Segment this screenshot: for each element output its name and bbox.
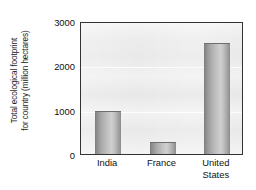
x-axis-tick-label-united-states: United States [202,157,229,180]
y-axis-title-line-1: Total ecological footprint [10,30,21,130]
x-axis-tick-label-india-line-1: India [97,157,117,169]
x-axis-tick-label-france: France [147,157,176,169]
y-axis-tick-labels: 3000 2000 1000 0 [38,0,78,190]
y-axis-tick-label: 3000 [54,17,75,28]
y-axis-tick-label: 0 [70,150,75,161]
y-axis-title-line-2: for country (million hectares) [20,30,31,130]
x-axis-tick-labels: India France United States [80,157,243,190]
bar-france [150,142,176,154]
x-axis-tick-label-france-line-1: France [147,157,176,169]
bar-india [95,111,121,154]
y-axis-tick-label: 1000 [54,105,75,116]
x-axis-tick-label-united-states-line-2: States [202,169,229,181]
plot-area [80,22,243,155]
x-axis-tick-label-india: India [97,157,117,169]
bar-chart-figure: Total ecological footprint for country (… [0,0,256,190]
bar-united-states [204,43,230,154]
y-axis-tick-label: 2000 [54,61,75,72]
y-axis-title: Total ecological footprint for country (… [0,0,40,160]
x-axis-tick-label-united-states-line-1: United [202,157,229,169]
